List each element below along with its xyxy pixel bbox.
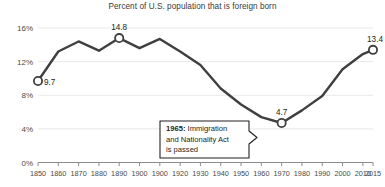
- x-axis-tick-label: 1900: [152, 169, 168, 178]
- data-point-label: 14.8: [111, 23, 127, 32]
- x-axis-tick-label: 1980: [294, 169, 310, 178]
- data-point-marker: [115, 34, 123, 42]
- callout-line-1-rest: Immigration: [185, 124, 227, 133]
- data-point-marker: [369, 46, 377, 54]
- line-chart-plot: 0%4%8%12%16% 185018601870188018901900190…: [0, 0, 385, 187]
- x-axis-tick-label: 1940: [213, 169, 229, 178]
- x-axis-tick-label: 1860: [50, 169, 66, 178]
- gridlines: [38, 28, 373, 129]
- data-point-marker: [34, 77, 42, 85]
- y-axis-tick-label: 0%: [21, 159, 33, 168]
- data-point-labels: 9.714.84.713.4: [44, 23, 383, 117]
- callout-line-1: 1965: Immigration: [166, 124, 227, 133]
- x-axis-tick-label: 1960: [253, 169, 269, 178]
- x-axis-tick-label: 1970: [274, 169, 290, 178]
- x-axis-tick-label: 1950: [233, 169, 249, 178]
- x-axis-tick-label: 2015: [365, 169, 381, 178]
- data-point-label: 4.7: [276, 108, 288, 117]
- x-axis-tick-label: 1880: [91, 169, 107, 178]
- immigration-act-callout: 1965: Immigration and Nationality Act is…: [160, 121, 257, 158]
- chart-container: Percent of U.S. population that is forei…: [0, 0, 385, 187]
- y-axis-tick-label: 12%: [17, 58, 33, 67]
- x-axis-tick-label: 1900: [131, 169, 147, 178]
- data-line-series: [38, 38, 373, 123]
- x-axis-tick-label: 1890: [111, 169, 127, 178]
- y-axis-tick-label: 16%: [17, 24, 33, 33]
- x-axis-ticks: [38, 163, 373, 167]
- data-point-label: 9.7: [44, 78, 56, 87]
- x-axis-tick-label: 1990: [314, 169, 330, 178]
- x-axis-tick-labels: 1850186018701880189019001900192019301940…: [30, 169, 381, 178]
- x-axis-tick-label: 2000: [334, 169, 350, 178]
- callout-line-2: and Nationality Act: [166, 135, 230, 144]
- data-point-markers: [34, 34, 377, 127]
- y-axis-tick-labels: 0%4%8%12%16%: [17, 24, 33, 168]
- x-axis-tick-label: 1930: [192, 169, 208, 178]
- x-axis-tick-label: 1920: [172, 169, 188, 178]
- callout-line-3: is passed: [166, 145, 198, 154]
- x-axis-tick-label: 1870: [70, 169, 86, 178]
- data-point-label: 13.4: [367, 35, 383, 44]
- y-axis-tick-label: 8%: [21, 91, 33, 100]
- y-axis-tick-label: 4%: [21, 125, 33, 134]
- callout-year: 1965:: [166, 124, 185, 133]
- x-axis-tick-label: 1850: [30, 169, 46, 178]
- data-point-marker: [278, 119, 286, 127]
